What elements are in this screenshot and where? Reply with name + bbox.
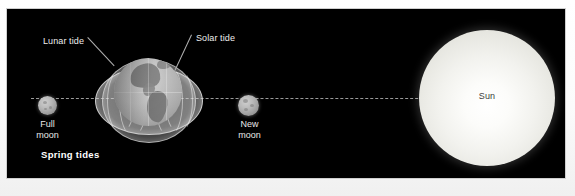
- new-moon-label: New moon: [218, 119, 281, 141]
- moon-crater-icon: [243, 99, 248, 103]
- moon-crater-icon: [49, 106, 52, 109]
- moon-crater-icon: [43, 101, 47, 104]
- moon-crater-icon: [250, 104, 254, 107]
- figure-caption: Spring tides: [41, 149, 100, 160]
- new-moon-label-line2: moon: [218, 130, 281, 141]
- new-moon-disc: [238, 95, 259, 116]
- moon-crater-icon: [44, 108, 47, 110]
- full-moon-label-line2: moon: [16, 130, 79, 141]
- earth-with-tidal-bulges: [95, 55, 201, 145]
- moon-crater-icon: [244, 108, 248, 111]
- new-moon-label-line1: New: [218, 119, 281, 130]
- night-sky-panel: Sun Full moon New moon: [7, 9, 565, 178]
- earth-day-night-terminator: [114, 58, 182, 126]
- spring-tides-figure: Sun Full moon New moon: [0, 0, 575, 196]
- solar-tide-callout-label: Solar tide: [196, 33, 235, 43]
- lunar-tide-callout-label: Lunar tide: [43, 36, 84, 46]
- full-moon-label: Full moon: [16, 119, 79, 141]
- full-moon-disc: [38, 96, 57, 115]
- earth-globe: [114, 58, 182, 126]
- sun-label: Sun: [419, 91, 555, 101]
- full-moon-label-line1: Full: [16, 119, 79, 130]
